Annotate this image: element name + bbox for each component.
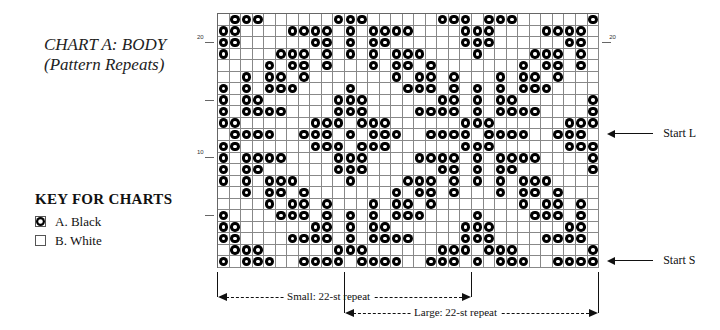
arrow-left-icon — [613, 133, 653, 134]
chart-cell-white — [426, 164, 438, 176]
chart-grid — [217, 13, 599, 268]
chart-cell-white — [437, 187, 449, 199]
chart-cell-white — [576, 164, 588, 176]
chart-cell-white — [530, 37, 542, 49]
chart-cell-white — [230, 199, 242, 211]
chart-cell-black — [322, 222, 334, 234]
chart-cell-white — [276, 129, 288, 141]
chart-cell-white — [437, 141, 449, 153]
chart-cell-white — [530, 14, 542, 26]
chart-cell-white — [541, 72, 553, 84]
chart-cell-black — [287, 83, 299, 95]
chart-cell-white — [588, 210, 600, 222]
key-item-black: A. Black — [35, 212, 172, 231]
chart-cell-white — [299, 141, 311, 153]
chart-cell-black — [530, 106, 542, 118]
chart-cell-black — [449, 106, 461, 118]
chart-cell-black — [218, 210, 230, 222]
chart-cell-black — [553, 49, 565, 61]
chart-cell-black — [530, 83, 542, 95]
chart-cell-black — [241, 95, 253, 107]
chart-cell-white — [276, 222, 288, 234]
chart-cell-black — [241, 14, 253, 26]
chart-cell-white — [276, 37, 288, 49]
chart-cell-black — [541, 199, 553, 211]
chart-cell-black — [368, 256, 380, 268]
chart-cell-white — [507, 233, 519, 245]
chart-cell-black — [553, 256, 565, 268]
black-dot-icon — [35, 216, 46, 227]
chart-cell-black — [576, 256, 588, 268]
chart-cell-black — [472, 37, 484, 49]
chart-cell-black — [564, 37, 576, 49]
chart-cell-white — [276, 245, 288, 257]
chart-cell-black — [507, 106, 519, 118]
chart-cell-white — [357, 199, 369, 211]
chart-cell-white — [380, 83, 392, 95]
chart-cell-black — [426, 176, 438, 188]
chart-cell-white — [507, 199, 519, 211]
chart-cell-black — [588, 106, 600, 118]
chart-cell-black — [345, 49, 357, 61]
chart-cell-white — [541, 37, 553, 49]
chart-cell-white — [218, 199, 230, 211]
chart-cell-white — [414, 37, 426, 49]
chart-cell-black — [230, 129, 242, 141]
chart-cell-black — [576, 37, 588, 49]
chart-cell-white — [403, 37, 415, 49]
chart-cell-black — [437, 256, 449, 268]
chart-cell-white — [414, 118, 426, 130]
chart-cell-black — [264, 199, 276, 211]
chart-cell-black — [391, 49, 403, 61]
chart-cell-black — [218, 256, 230, 268]
chart-cell-black — [368, 222, 380, 234]
chart-cell-black — [276, 187, 288, 199]
chart-cell-white — [437, 49, 449, 61]
chart-cell-black — [333, 164, 345, 176]
chart-cell-white — [264, 210, 276, 222]
chart-cell-white — [564, 60, 576, 72]
chart-cell-white — [391, 106, 403, 118]
chart-cell-black — [588, 256, 600, 268]
knitting-chart — [217, 13, 599, 268]
chart-cell-white — [391, 95, 403, 107]
row-number-right: 20 — [609, 34, 616, 40]
chart-cell-white — [322, 187, 334, 199]
chart-cell-white — [380, 72, 392, 84]
repeat-label: Small: 22-st repeat — [284, 290, 373, 302]
chart-cell-white — [541, 14, 553, 26]
chart-cell-white — [460, 49, 472, 61]
row-tick-left — [205, 42, 214, 43]
chart-cell-black — [472, 176, 484, 188]
chart-cell-black — [460, 26, 472, 38]
chart-cell-black — [576, 26, 588, 38]
chart-cell-black — [564, 26, 576, 38]
chart-cell-white — [299, 14, 311, 26]
chart-cell-white — [357, 72, 369, 84]
chart-cell-black — [460, 245, 472, 257]
chart-cell-white — [414, 60, 426, 72]
chart-cell-black — [310, 256, 322, 268]
chart-cell-black — [253, 245, 265, 257]
chart-cell-white — [518, 95, 530, 107]
chart-cell-white — [530, 199, 542, 211]
chart-cell-black — [264, 176, 276, 188]
chart-cell-black — [541, 210, 553, 222]
chart-cell-black — [218, 106, 230, 118]
chart-cell-black — [437, 129, 449, 141]
chart-cell-white — [241, 199, 253, 211]
chart-cell-white — [345, 72, 357, 84]
chart-cell-black — [345, 222, 357, 234]
chart-cell-white — [588, 83, 600, 95]
chart-cell-white — [460, 187, 472, 199]
chart-cell-white — [530, 60, 542, 72]
chart-cell-white — [414, 129, 426, 141]
chart-cell-black — [437, 106, 449, 118]
chart-cell-black — [264, 83, 276, 95]
start-marker-start-l: Start L — [613, 126, 696, 141]
chart-cell-black — [426, 199, 438, 211]
chart-cell-black — [391, 233, 403, 245]
chart-cell-white — [230, 256, 242, 268]
chart-cell-black — [241, 164, 253, 176]
chart-cell-white — [333, 199, 345, 211]
